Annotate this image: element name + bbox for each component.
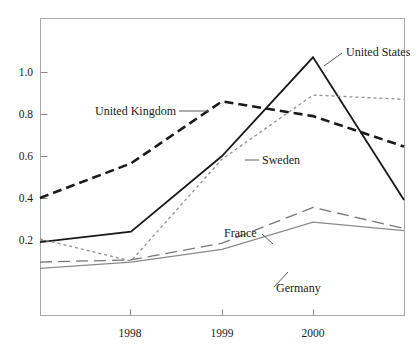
line-chart: 1.0 0.8 0.6 0.4 0.2 1998 1999 2000 (0, 0, 420, 356)
y-tick-label: 0.4 (19, 192, 34, 204)
chart-canvas: 1.0 0.8 0.6 0.4 0.2 1998 1999 2000 (0, 0, 420, 356)
series-label-united-kingdom: United Kingdom (95, 104, 177, 118)
x-tick-label: 1999 (211, 327, 234, 339)
x-tick-label: 2000 (302, 327, 325, 339)
y-tick-label: 0.6 (19, 150, 34, 162)
x-axis-labels: 1998 1999 2000 (119, 327, 325, 339)
series-label-france: France (224, 226, 257, 240)
plot-frame (41, 19, 405, 316)
y-axis-labels: 1.0 0.8 0.6 0.4 0.2 (19, 66, 34, 246)
series-label-sweden: Sweden (262, 153, 300, 167)
series-label-germany: Germany (276, 281, 321, 295)
x-tick-label: 1998 (119, 327, 142, 339)
series-label-united-states: United States (346, 45, 411, 59)
y-tick-label: 0.8 (19, 108, 34, 120)
y-tick-label: 1.0 (19, 66, 34, 78)
y-tick-label: 0.2 (19, 234, 34, 246)
